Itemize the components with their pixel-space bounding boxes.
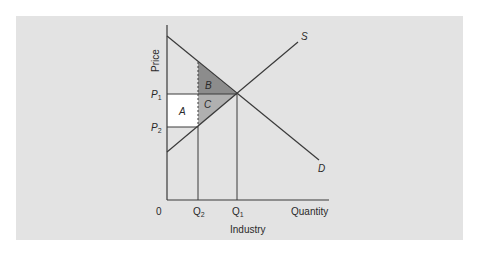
supply-label: S bbox=[301, 31, 308, 42]
supply-demand-diagram: S D A B C Price P1 P2 0 Q2 Q1 Quantity I… bbox=[0, 0, 479, 254]
area-b-label: B bbox=[205, 80, 212, 91]
area-a-label: A bbox=[178, 106, 186, 117]
origin-label: 0 bbox=[156, 206, 162, 217]
q1-label: Q1 bbox=[232, 206, 244, 218]
p2-label: P2 bbox=[151, 122, 162, 134]
y-axis-title: Price bbox=[150, 49, 161, 72]
p1-label: P1 bbox=[151, 89, 162, 101]
diagram-caption: Industry bbox=[230, 224, 266, 235]
area-c-label: C bbox=[204, 99, 212, 110]
x-axis-title: Quantity bbox=[291, 206, 328, 217]
demand-label: D bbox=[318, 163, 325, 174]
q2-label: Q2 bbox=[193, 206, 205, 218]
